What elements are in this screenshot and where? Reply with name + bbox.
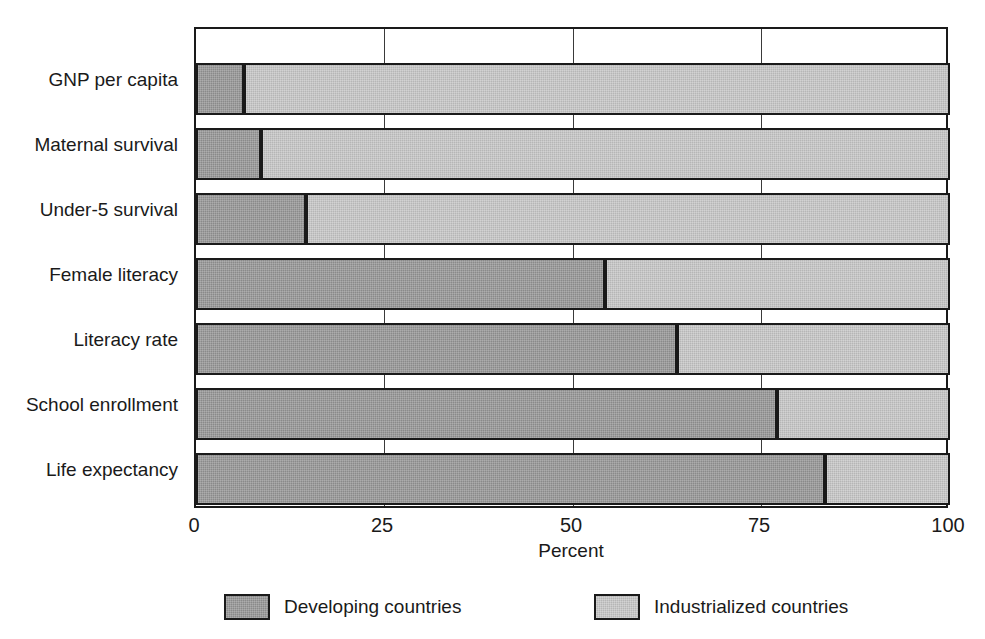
bar-segment-industrialized [306, 193, 950, 245]
bar-segment-developing [196, 193, 306, 245]
bar-segment-developing [196, 258, 605, 310]
bar-segment-developing [196, 323, 677, 375]
category-label-gnp-per-capita: GNP per capita [48, 71, 178, 89]
bar-segment-developing [196, 453, 825, 505]
bar-segment-industrialized [261, 128, 950, 180]
x-tick-label-75: 75 [748, 514, 770, 536]
category-label-life-expectancy: Life expectancy [46, 461, 178, 479]
legend-label-developing: Developing countries [284, 596, 461, 618]
plot-area [194, 27, 948, 508]
bar-segment-developing [196, 63, 244, 115]
x-tick-label-25: 25 [371, 514, 393, 536]
legend-item-industrialized-countries: Industrialized countries [594, 592, 848, 622]
x-axis-title: Percent [194, 540, 948, 562]
legend-label-industrialized: Industrialized countries [654, 596, 848, 618]
x-tick-label-50: 50 [560, 514, 582, 536]
stacked-bar-chart: GNP per capita Maternal survival Under-5… [0, 0, 985, 639]
category-label-school-enrollment: School enrollment [26, 396, 178, 414]
x-tick-label-100: 100 [931, 514, 964, 536]
bar-segment-developing [196, 388, 777, 440]
legend-swatch-industrialized-icon [594, 594, 640, 620]
category-label-under-5-survival: Under-5 survival [40, 201, 178, 219]
bar-segment-developing [196, 128, 261, 180]
bar-segment-industrialized [777, 388, 950, 440]
legend-swatch-developing-icon [224, 594, 270, 620]
bar-segment-industrialized [244, 63, 950, 115]
legend-item-developing-countries: Developing countries [224, 592, 461, 622]
bar-segment-industrialized [605, 258, 950, 310]
bar-segment-industrialized [677, 323, 950, 375]
bar-segment-industrialized [825, 453, 950, 505]
category-label-female-literacy: Female literacy [49, 266, 178, 284]
x-tick-label-0: 0 [188, 514, 199, 536]
category-label-maternal-survival: Maternal survival [34, 136, 178, 154]
category-axis-labels: GNP per capita Maternal survival Under-5… [0, 27, 186, 508]
category-label-literacy-rate: Literacy rate [73, 331, 178, 349]
chart-legend: Developing countries Industrialized coun… [194, 592, 948, 632]
